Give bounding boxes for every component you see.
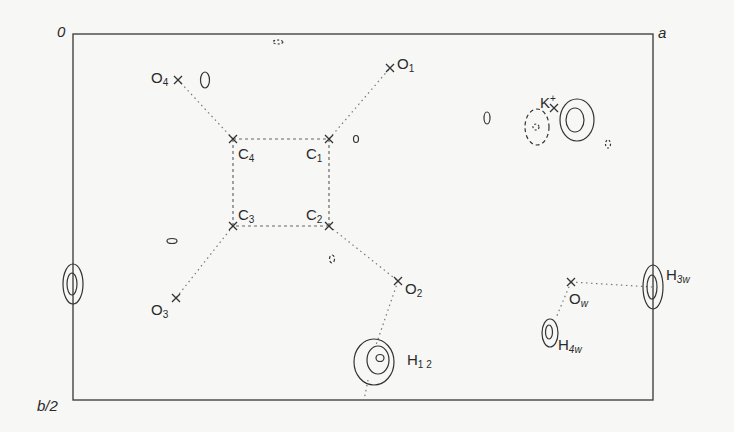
atom-label-c3: C3 [238,207,254,225]
density-contours [63,40,663,385]
atom-label-o3: O3 [151,302,168,320]
a-axis-label: a [658,25,666,40]
atom-label-o4: O4 [151,70,168,88]
peak-label-h4w: H4w [558,337,582,355]
b-half-axis-label: b/2 [37,398,58,413]
atom-label-ow: Ow [569,291,588,309]
atom-label-c4: C4 [238,146,254,164]
atom-label-o2: O2 [405,281,422,299]
atom-label-c1: C1 [306,146,322,164]
origin-label: 0 [57,24,65,39]
peak-label-h12: H1 2 [407,352,432,370]
atom-label-k: K+ [540,94,556,110]
atom-label-o1: O1 [397,56,414,74]
map-canvas [0,0,734,432]
peak-label-h3w: H3w [666,267,690,285]
atom-label-c2: C2 [306,207,322,225]
